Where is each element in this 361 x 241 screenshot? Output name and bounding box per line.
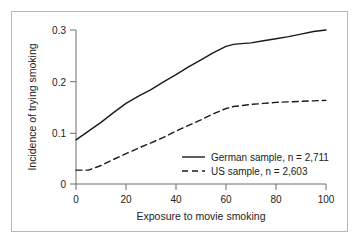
x-tick-label-2: 40 (170, 194, 182, 205)
legend: German sample, n = 2,711 US sample, n = … (182, 152, 329, 177)
x-tick-label-0: 0 (73, 194, 79, 205)
y-tick-label-0: 0 (60, 179, 66, 190)
y-tick-label-1: 0.1 (52, 128, 66, 139)
y-tick-label-2: 0.2 (52, 77, 66, 88)
x-axis-title: Exposure to movie smoking (137, 210, 266, 222)
x-tick-label-4: 80 (270, 194, 282, 205)
x-tick-label-5: 100 (318, 194, 335, 205)
figure-container: 0 0.1 0.2 0.3 0 20 40 60 80 100 Exposure… (0, 0, 361, 241)
line-chart: 0 0.1 0.2 0.3 0 20 40 60 80 100 Exposure… (0, 0, 361, 241)
legend-label-us: US sample, n = 2,603 (211, 166, 308, 177)
y-tick-label-3: 0.3 (52, 25, 66, 36)
series-line-german (76, 30, 326, 140)
y-axis-title: Incidence of trying smoking (26, 43, 38, 170)
x-tick-label-3: 60 (220, 194, 232, 205)
x-tick-label-1: 20 (120, 194, 132, 205)
legend-label-german: German sample, n = 2,711 (211, 152, 329, 163)
